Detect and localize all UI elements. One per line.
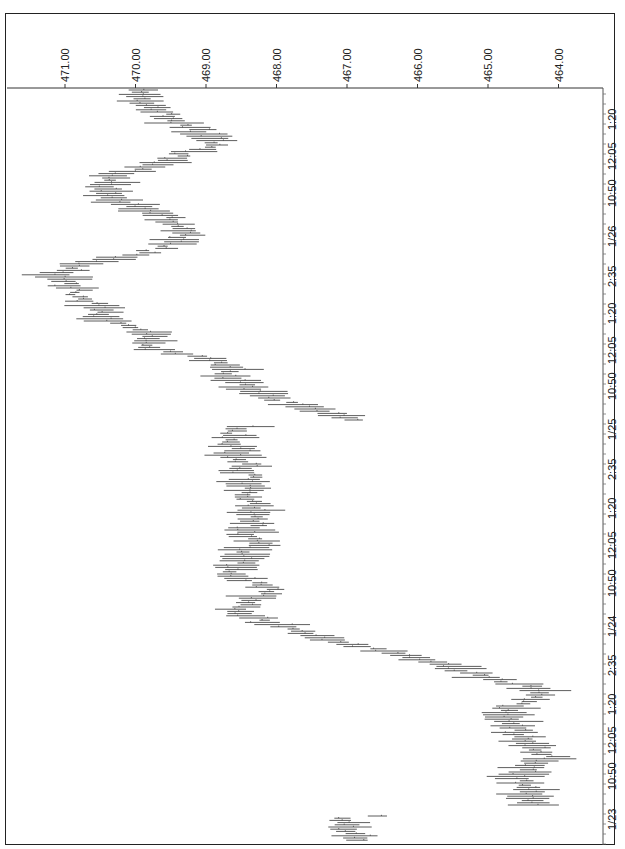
time-tick-label: 2:35 bbox=[606, 266, 618, 287]
price-tick-label: 471.00 bbox=[59, 48, 71, 82]
price-bars bbox=[22, 89, 577, 840]
time-tick-label: 1:20 bbox=[606, 498, 618, 519]
price-tick-label: 468.00 bbox=[271, 48, 283, 82]
time-tick-label: 1/26 bbox=[606, 226, 618, 247]
time-tick-label: 10:50 bbox=[606, 372, 618, 400]
price-chart: 471.00470.00469.00468.00467.00466.00465.… bbox=[0, 0, 625, 849]
time-tick-label: 1/24 bbox=[606, 616, 618, 637]
time-tick-label: 2:35 bbox=[606, 459, 618, 480]
time-tick-label: 2:35 bbox=[606, 655, 618, 676]
time-tick-label: 1:20 bbox=[606, 303, 618, 324]
time-tick-label: 12:05 bbox=[606, 336, 618, 364]
price-tick-label: 469.00 bbox=[200, 48, 212, 82]
price-tick-label: 467.00 bbox=[341, 48, 353, 82]
time-tick-label: 1:20 bbox=[606, 109, 618, 130]
time-tick-label: 12:05 bbox=[606, 142, 618, 170]
time-tick-label: 12:05 bbox=[606, 726, 618, 754]
time-tick-label: 10:50 bbox=[606, 179, 618, 207]
time-tick-label: 1/25 bbox=[606, 419, 618, 440]
price-axis: 471.00470.00469.00468.00467.00466.00465.… bbox=[7, 48, 603, 88]
price-tick-label: 466.00 bbox=[412, 48, 424, 82]
time-tick-label: 1:20 bbox=[606, 694, 618, 715]
time-tick-label: 10:50 bbox=[606, 569, 618, 597]
price-tick-label: 470.00 bbox=[130, 48, 142, 82]
price-tick-label: 465.00 bbox=[482, 48, 494, 82]
price-tick-label: 464.00 bbox=[553, 48, 565, 82]
time-tick-label: 12:05 bbox=[606, 531, 618, 559]
time-tick-label: 10:50 bbox=[606, 762, 618, 790]
time-tick-label: 1/23 bbox=[606, 809, 618, 830]
time-axis: 1:2012:0510:501/262:351:2012:0510:501/25… bbox=[603, 88, 618, 845]
